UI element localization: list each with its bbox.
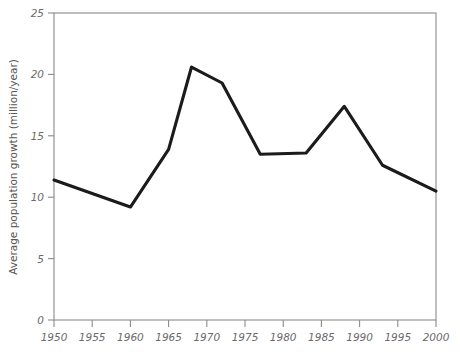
x-tick-group: 1960 xyxy=(117,320,144,343)
x-tick-group: 1970 xyxy=(193,320,220,343)
x-tick-label: 1970 xyxy=(193,331,220,343)
x-tick-group: 1975 xyxy=(232,320,259,343)
y-tick-label: 25 xyxy=(31,7,45,19)
y-axis: 0 5 10 15 20 25 xyxy=(31,7,54,326)
line-chart-svg: 0 5 10 15 20 25 Average xyxy=(0,0,460,359)
x-tick-group: 1990 xyxy=(346,320,373,343)
x-tick-label: 1990 xyxy=(346,331,373,343)
y-tick-label: 10 xyxy=(31,191,45,203)
plot-area-border xyxy=(54,13,436,320)
x-tick-label: 1985 xyxy=(308,331,335,343)
x-tick-group: 1980 xyxy=(270,320,297,343)
y-tick-label: 5 xyxy=(37,253,44,265)
y-tick-group: 0 xyxy=(37,314,54,326)
x-axis: 1950 1955 1960 1965 1970 1975 xyxy=(41,320,450,343)
data-line-population-growth xyxy=(54,67,436,207)
x-tick-label: 1975 xyxy=(232,331,259,343)
x-tick-label: 1965 xyxy=(155,331,182,343)
x-tick-group: 1995 xyxy=(384,320,411,343)
x-tick-group: 1950 xyxy=(41,320,68,343)
y-tick-group: 25 xyxy=(31,7,54,19)
x-tick-label: 1955 xyxy=(79,331,106,343)
x-tick-label: 1950 xyxy=(41,331,68,343)
y-tick-label: 20 xyxy=(31,68,45,80)
plot-frame xyxy=(54,13,436,320)
x-tick-label: 1960 xyxy=(117,331,144,343)
y-tick-group: 10 xyxy=(31,191,54,203)
chart-figure: 0 5 10 15 20 25 Average xyxy=(0,0,460,359)
x-tick-label: 1980 xyxy=(270,331,297,343)
x-tick-group: 1965 xyxy=(155,320,182,343)
y-tick-group: 5 xyxy=(37,253,54,265)
x-tick-label: 1995 xyxy=(384,331,411,343)
y-tick-label: 15 xyxy=(31,130,45,142)
y-tick-label: 0 xyxy=(37,314,44,326)
x-tick-group: 2000 xyxy=(423,320,450,343)
x-tick-group: 1955 xyxy=(79,320,106,343)
y-axis-title: Average population growth (million/year) xyxy=(7,59,19,275)
x-tick-label: 2000 xyxy=(423,331,450,343)
x-tick-group: 1985 xyxy=(308,320,335,343)
y-tick-group: 20 xyxy=(31,68,54,80)
y-tick-group: 15 xyxy=(31,130,54,142)
